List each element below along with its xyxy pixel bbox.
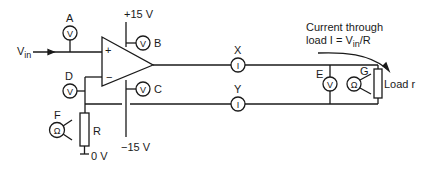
- meter-d-label: D: [65, 70, 73, 82]
- resistor-r: [80, 113, 89, 146]
- current-arrow: [318, 53, 386, 68]
- load-label: Load r: [384, 78, 416, 90]
- meter-f-glyph: Ω: [54, 126, 61, 136]
- meter-b-glyph: V: [140, 39, 146, 49]
- positive-supply-label: +15 V: [124, 8, 154, 20]
- meter-d-glyph: V: [67, 87, 73, 97]
- meter-g-label: G: [360, 65, 369, 77]
- arrowhead-icon: [383, 63, 389, 71]
- meter-x-glyph: I: [237, 61, 240, 71]
- opamp-minus-sign: −: [106, 71, 112, 83]
- negative-supply-label: −15 V: [121, 141, 151, 153]
- meter-a-label: A: [66, 12, 74, 24]
- meter-y-glyph: I: [237, 100, 240, 110]
- meter-f-label: F: [54, 109, 61, 121]
- resistor-r-label: R: [93, 125, 101, 137]
- meter-g-glyph: Ω: [351, 80, 358, 90]
- meter-a-glyph: V: [67, 29, 73, 39]
- circuit-diagram: V V V V Ω I I V Ω A B C D F X Y E G + − …: [0, 0, 428, 172]
- meter-e-glyph: V: [327, 80, 333, 90]
- input-label: Vin: [17, 45, 31, 60]
- annotation-line1: Current through: [306, 21, 383, 33]
- opamp-plus-sign: +: [105, 44, 111, 56]
- meter-x-label: X: [234, 44, 242, 56]
- meter-e-label: E: [316, 68, 323, 80]
- annotation-line2: load I = Vin/R: [306, 34, 371, 49]
- meter-y-label: Y: [234, 83, 242, 95]
- meter-c-label: C: [154, 83, 162, 95]
- meter-b-label: B: [154, 37, 161, 49]
- input-arrow-icon: [48, 50, 54, 55]
- meter-c-glyph: V: [140, 85, 146, 95]
- load-resistor: [374, 69, 382, 98]
- ground-label: 0 V: [91, 150, 108, 162]
